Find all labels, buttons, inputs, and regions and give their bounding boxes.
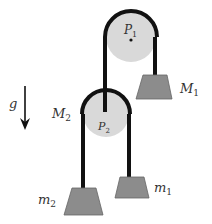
mass-m2 <box>64 188 103 215</box>
label-M2: M2 <box>51 106 71 123</box>
label-M1: M1 <box>179 81 199 98</box>
mass-m1 <box>115 177 149 198</box>
label-m2: m2 <box>38 192 56 209</box>
gravity-arrow-icon <box>20 86 30 130</box>
pulley-p2: P2 <box>82 90 130 137</box>
label-g: g <box>9 96 17 111</box>
pulley-p1: P1 <box>105 11 157 62</box>
mass-M1 <box>136 75 172 99</box>
pulley-diagram: P1 P2 M1 m1 m2 M2 g <box>0 0 212 224</box>
label-m1: m1 <box>154 180 172 197</box>
